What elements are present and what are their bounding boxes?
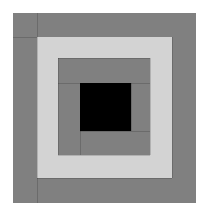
quilt-block-canvas: [0, 0, 207, 215]
seam-outer-bottom-horiz: [37, 178, 172, 179]
seam-outer-left-vertical: [37, 13, 38, 203]
round-3-dark-bottom: [37, 178, 196, 203]
round-2-light-left: [37, 58, 58, 178]
seam-inner-right-vertical: [150, 58, 151, 155]
seam-inner-left-vertical: [58, 58, 59, 155]
seam-outer-top-horizontal: [13, 37, 37, 38]
round-3-dark-right: [172, 37, 196, 178]
round-3-dark-top: [13, 13, 196, 37]
seam-inner-bottom-horiz: [58, 155, 150, 156]
round-2-light-top: [37, 37, 172, 58]
seam-inner-top-horizontal: [58, 58, 150, 59]
seam-core-top-horizontal: [58, 83, 150, 84]
seam-core-bottom-horiz: [80, 131, 150, 132]
round-1-dark-left: [58, 83, 80, 155]
seam-outer-right-vertical: [172, 37, 173, 178]
round-1-dark-top: [58, 58, 150, 83]
round-3-dark-left: [13, 37, 37, 203]
center-square: [80, 83, 131, 131]
seam-core-left-vertical: [80, 83, 81, 155]
round-2-light-right: [150, 58, 172, 155]
round-1-dark-right: [131, 83, 150, 131]
seam-core-right-vertical: [131, 83, 132, 131]
round-1-dark-bottom: [80, 131, 150, 155]
round-2-light-bottom: [58, 155, 172, 178]
